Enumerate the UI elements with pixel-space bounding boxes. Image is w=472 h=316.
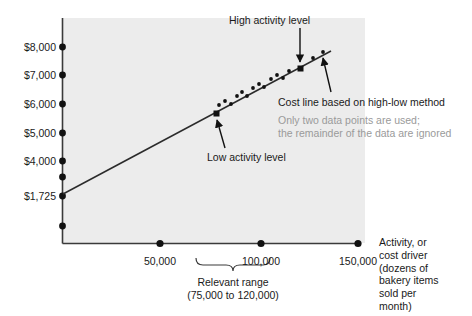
axis-title-line: bakery items (379, 274, 471, 287)
y-tick-label-1725: $1,725 (0, 190, 56, 202)
data-point (217, 103, 221, 107)
data-point (235, 94, 239, 98)
y-tick-1000 (59, 223, 66, 230)
cost-line-caption: Cost line based on high-low method (278, 96, 445, 108)
ignored-note-line-2: the remainder of the data are ignored (278, 127, 451, 139)
high-activity-point (298, 66, 304, 72)
y-tick-label-5000: $5,000 (0, 127, 56, 139)
data-point (257, 82, 261, 86)
y-tick-5000 (59, 130, 66, 137)
data-point (275, 73, 279, 77)
x-tick-150000 (354, 240, 361, 247)
y-tick-6000 (59, 101, 66, 108)
y-tick-7000 (59, 72, 66, 79)
x-tick-50000 (156, 240, 163, 247)
axis-title-line: Activity, or (379, 236, 471, 249)
ignored-note-line-1: Only two data points are used; (278, 114, 420, 126)
data-point (281, 76, 285, 80)
axis-title-line: (dozens of (379, 262, 471, 275)
y-tick-4000 (59, 158, 66, 165)
data-point (229, 102, 233, 106)
data-point (311, 56, 315, 60)
data-point (240, 90, 244, 94)
axis-title-line: cost driver (379, 249, 471, 262)
y-tick-label-8000: $8,000 (0, 41, 56, 53)
axis-title-line: month) (379, 300, 471, 313)
y-tick-3000 (59, 174, 66, 181)
data-point (269, 77, 273, 81)
y-tick-label-4000: $4,000 (0, 155, 56, 167)
axis-title-line: sold per (379, 287, 471, 300)
relevant-range-label: Relevant range (173, 276, 293, 288)
y-tick-label-6000: $6,000 (0, 98, 56, 110)
data-point (223, 99, 227, 103)
x-tick-label-50000: 50,000 (120, 255, 200, 267)
relevant-range-values: (75,000 to 120,000) (173, 289, 293, 301)
data-point (321, 50, 325, 54)
data-point (251, 86, 255, 90)
x-tick-100000 (257, 240, 264, 247)
x-tick-label-100000: 100,000 (221, 255, 301, 267)
data-point (262, 85, 266, 89)
high-activity-level-label: High activity level (229, 14, 310, 26)
x-axis-title: Activity, or cost driver (dozens of bake… (379, 236, 471, 313)
low-activity-level-label: Low activity level (207, 151, 286, 163)
data-point (245, 94, 249, 98)
low-activity-point (214, 111, 220, 117)
y-tick-8000 (59, 44, 66, 51)
cost-behavior-chart: $8,000 $7,000 $6,000 $5,000 $4,000 $1,72… (0, 0, 472, 316)
data-point (287, 69, 291, 73)
y-tick-label-7000: $7,000 (0, 69, 56, 81)
